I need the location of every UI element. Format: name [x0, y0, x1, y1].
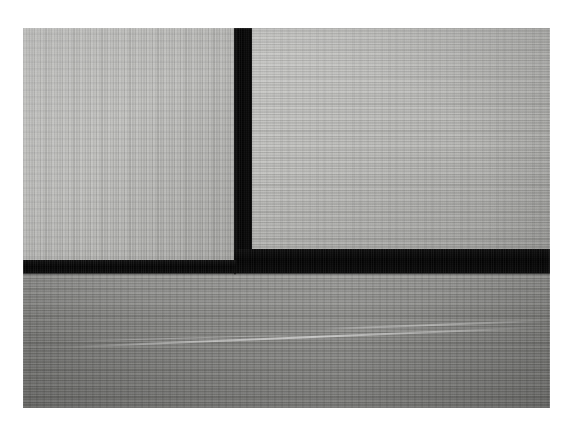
image-caption: Close-up photograph of tatami flooring: …	[0, 16, 1, 17]
upper-right-mat: Upper right tatami panel	[252, 28, 550, 250]
horizontal-edging-left-texture	[23, 260, 236, 273]
photo-canvas: Close-up photograph of tatami flooring: …	[0, 0, 566, 422]
horizontal-edging-band-left	[23, 260, 236, 273]
lower-mat: Lower tatami panel	[23, 272, 550, 408]
vertical-edging-texture	[234, 28, 252, 273]
vertical-edging-band	[234, 28, 252, 273]
upper-left-mat-sheen	[23, 28, 235, 265]
upper-right-mat-sheen	[252, 28, 550, 250]
photograph-print: Upper left tatami panel Upper right tata…	[23, 28, 550, 408]
horizontal-edging-band-right	[234, 249, 550, 273]
upper-left-mat: Upper left tatami panel	[23, 28, 235, 265]
lower-mat-sheen	[23, 272, 550, 408]
horizontal-edging-right-texture	[234, 249, 550, 273]
